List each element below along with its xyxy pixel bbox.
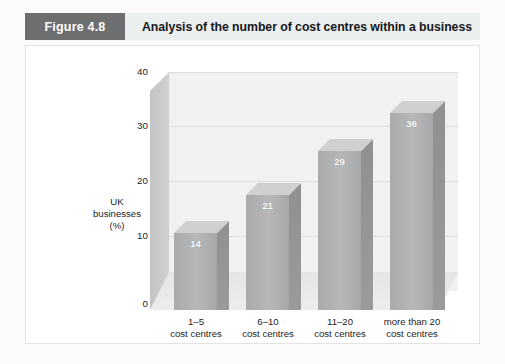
y-axis-title-line-3: (%) (110, 220, 125, 231)
bar-3-side (361, 139, 373, 310)
y-tick-20: 20 (122, 175, 148, 186)
bar-chart: 40 30 20 10 0 UK businesses (%) 14 (26, 46, 479, 343)
figure-title: Analysis of the number of cost centres w… (125, 20, 472, 34)
bar-4-value-label: 36 (390, 118, 433, 129)
figure-header: Figure 4.8 Analysis of the number of cos… (25, 13, 480, 40)
gridline-40 (169, 72, 458, 73)
x-label-4: more than 20 cost centres (366, 316, 458, 340)
bar-3-value-label: 29 (318, 156, 361, 167)
bar-2-front (246, 195, 289, 310)
bar-2-side (289, 183, 301, 310)
y-axis-title-line-1: UK (110, 196, 123, 207)
bar-4[interactable]: 36 (390, 101, 433, 310)
bar-2[interactable]: 21 (246, 183, 289, 310)
plot-left-wall (150, 72, 169, 310)
bar-4-side (433, 101, 445, 310)
y-axis-title: UK businesses (%) (81, 196, 153, 232)
bar-3-front (318, 151, 361, 310)
x-label-2-line-1: 6–10 (257, 316, 278, 327)
bar-1-side (217, 221, 229, 310)
bar-2-value-label: 21 (246, 200, 289, 211)
bar-1[interactable]: 14 (174, 221, 217, 310)
bar-3[interactable]: 29 (318, 139, 361, 310)
x-label-1-line-1: 1–5 (188, 316, 204, 327)
x-label-4-line-1: more than 20 (384, 316, 441, 327)
y-tick-40: 40 (122, 66, 148, 77)
y-axis-title-line-2: businesses (93, 208, 141, 219)
y-tick-30: 30 (122, 120, 148, 131)
figure-number-badge: Figure 4.8 (25, 13, 125, 40)
x-label-4-line-2: cost centres (366, 328, 458, 340)
figure-page: Figure 4.8 Analysis of the number of cos… (0, 0, 505, 364)
chart-panel: 40 30 20 10 0 UK businesses (%) 14 (25, 45, 480, 344)
bar-1-value-label: 14 (174, 238, 217, 249)
x-label-3-line-1: 11–20 (327, 316, 353, 327)
y-tick-0: 0 (122, 298, 148, 309)
bar-4-front (390, 113, 433, 310)
